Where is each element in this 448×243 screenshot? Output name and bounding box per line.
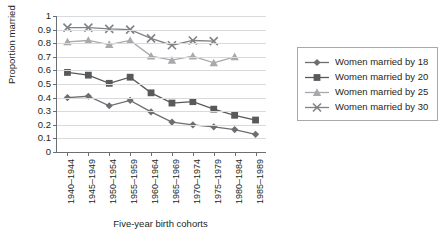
y-axis-tick-label: 0.7 xyxy=(38,52,51,62)
y-axis-tick xyxy=(53,152,57,153)
y-axis-tick-label: 0 xyxy=(46,147,51,157)
legend-key-glyph xyxy=(304,101,330,114)
y-axis-tick xyxy=(53,57,57,58)
legend-key-square-icon xyxy=(304,70,330,83)
legend-key-glyph xyxy=(304,56,330,69)
chart-figure: Proportion married 10.90.80.70.60.50.40.… xyxy=(0,0,448,243)
legend-key-glyph xyxy=(304,71,330,84)
gridline xyxy=(57,138,266,139)
data-point-square-icon xyxy=(85,72,92,79)
legend-key-diamond-icon xyxy=(304,55,330,68)
y-axis-tick xyxy=(53,125,57,126)
x-axis-title: Five-year birth cohorts xyxy=(56,218,265,229)
y-axis-tick-label: 0.9 xyxy=(38,25,51,35)
plot-region: Proportion married 10.90.80.70.60.50.40.… xyxy=(0,0,280,243)
x-axis-tick xyxy=(88,152,89,156)
y-axis-tick-label: 0.5 xyxy=(38,79,51,89)
y-axis-tick-label: 0.3 xyxy=(38,106,51,116)
x-axis-tick-label: 1965–1969 xyxy=(171,159,180,204)
gridline xyxy=(57,84,266,85)
legend-item-label: Women married by 30 xyxy=(335,102,428,112)
y-axis-tick xyxy=(53,98,57,99)
gridline xyxy=(57,125,266,126)
x-axis-tick xyxy=(214,152,215,156)
legend-item[interactable]: Women married by 18 xyxy=(304,54,430,69)
legend-item-label: Women married by 18 xyxy=(335,57,428,67)
y-axis-tick xyxy=(53,111,57,112)
gridline xyxy=(57,70,266,71)
x-axis-tick xyxy=(109,152,110,156)
x-axis-tick xyxy=(172,152,173,156)
x-axis-tick-label: 1940–1944 xyxy=(67,159,76,204)
x-axis-tick xyxy=(256,152,257,156)
data-point-square-icon xyxy=(252,117,259,124)
y-axis-tick xyxy=(53,43,57,44)
y-axis-tick-label: 0.4 xyxy=(38,93,51,103)
y-axis-tick xyxy=(53,70,57,71)
plot-area: 10.90.80.70.60.50.40.30.20.101940–194419… xyxy=(56,16,266,153)
data-point-square-icon xyxy=(231,112,238,119)
series-line xyxy=(67,72,255,120)
data-point-diamond-icon xyxy=(252,131,259,138)
data-point-diamond-icon xyxy=(231,126,238,133)
legend-key-glyph xyxy=(304,86,330,99)
y-axis-tick-label: 1 xyxy=(46,11,51,21)
x-axis-tick xyxy=(151,152,152,156)
data-point-x-icon xyxy=(147,34,155,42)
y-axis-title: Proportion married xyxy=(6,5,17,84)
data-point-square-icon xyxy=(189,98,196,105)
y-axis-tick-label: 0.8 xyxy=(38,38,51,48)
gridline xyxy=(57,98,266,99)
x-axis-tick-label: 1960–1964 xyxy=(151,159,160,204)
data-point-diamond-icon xyxy=(106,102,113,109)
x-axis-tick-label: 1950–1954 xyxy=(109,159,118,204)
gridline xyxy=(57,43,266,44)
gridline xyxy=(57,57,266,58)
gridline xyxy=(57,111,266,112)
legend-item[interactable]: Women married by 25 xyxy=(304,84,430,99)
chart-legend: Women married by 18 Women married by 20 … xyxy=(297,47,438,121)
data-point-diamond-icon xyxy=(85,93,92,100)
x-axis-tick-label: 1945–1949 xyxy=(88,159,97,204)
legend-item[interactable]: Women married by 30 xyxy=(304,99,430,114)
x-axis-tick-label: 1980–1984 xyxy=(234,159,243,204)
x-axis-tick-label: 1975–1979 xyxy=(213,159,222,204)
y-axis-tick-label: 0.6 xyxy=(38,66,51,76)
series-line xyxy=(67,96,255,134)
data-point-square-icon xyxy=(127,74,134,81)
data-point-triangle-icon xyxy=(147,52,155,60)
x-axis-tick xyxy=(67,152,68,156)
legend-item[interactable]: Women married by 20 xyxy=(304,69,430,84)
legend-item-label: Women married by 25 xyxy=(335,87,428,97)
y-axis-tick-label: 0.2 xyxy=(38,120,51,130)
x-axis-tick-label: 1985–1989 xyxy=(255,159,264,204)
data-point-triangle-icon xyxy=(189,52,197,60)
data-point-square-icon xyxy=(314,74,321,81)
gridline xyxy=(57,16,266,17)
x-axis-tick xyxy=(130,152,131,156)
y-axis-tick xyxy=(53,84,57,85)
y-axis-tick-label: 0.1 xyxy=(38,134,51,144)
data-point-square-icon xyxy=(169,100,176,107)
x-axis-tick-label: 1970–1974 xyxy=(192,159,201,204)
legend-item-label: Women married by 20 xyxy=(335,72,428,82)
x-axis-tick-label: 1955–1959 xyxy=(130,159,139,204)
y-axis-tick xyxy=(53,16,57,17)
gridline xyxy=(57,30,266,31)
y-axis-tick xyxy=(53,30,57,31)
y-axis-tick xyxy=(53,138,57,139)
x-axis-tick xyxy=(193,152,194,156)
data-point-square-icon xyxy=(148,89,155,96)
legend-key-triangle-icon xyxy=(304,85,330,98)
x-axis-tick xyxy=(235,152,236,156)
legend-key-x-icon xyxy=(304,100,330,113)
data-point-diamond-icon xyxy=(313,59,320,66)
